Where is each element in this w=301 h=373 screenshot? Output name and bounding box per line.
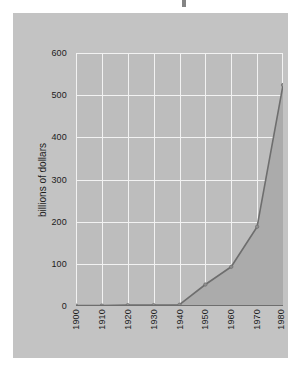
area-fill xyxy=(76,85,283,306)
data-point-1970 xyxy=(255,225,258,228)
y-tick-label: 100 xyxy=(51,259,67,269)
x-tick-label: 1980 xyxy=(276,309,286,330)
data-point-1960 xyxy=(230,265,233,268)
title-fragment xyxy=(182,0,186,7)
x-tick-label: 1930 xyxy=(149,309,159,330)
x-tick-label: 1970 xyxy=(252,309,262,330)
chart-figure: billions of dollars 600 500 400 300 200 … xyxy=(0,0,301,373)
x-axis-tick-labels: 1900 1910 1920 1930 1940 1950 1960 1970 … xyxy=(76,309,283,353)
data-point-1980 xyxy=(281,83,283,86)
data-point-1950 xyxy=(204,283,207,286)
x-axis-baseline xyxy=(76,305,283,306)
y-tick-label: 200 xyxy=(51,217,67,227)
x-tick-label: 1960 xyxy=(226,309,236,330)
y-tick-label: 0 xyxy=(62,301,67,311)
y-axis-tick-labels: 600 500 400 300 200 100 0 xyxy=(26,53,72,306)
y-tick-label: 600 xyxy=(51,48,67,58)
y-tick-label: 500 xyxy=(51,90,67,100)
x-tick-label: 1940 xyxy=(175,309,185,330)
y-tick-label: 400 xyxy=(51,132,67,142)
x-tick-label: 1910 xyxy=(97,309,107,330)
x-tick-label: 1920 xyxy=(123,309,133,330)
data-series-area xyxy=(76,53,283,306)
x-tick-label: 1950 xyxy=(200,309,210,330)
x-tick-label: 1900 xyxy=(71,309,81,330)
plot-area xyxy=(76,53,283,306)
y-tick-label: 300 xyxy=(51,175,67,185)
chart-panel: billions of dollars 600 500 400 300 200 … xyxy=(13,13,288,358)
